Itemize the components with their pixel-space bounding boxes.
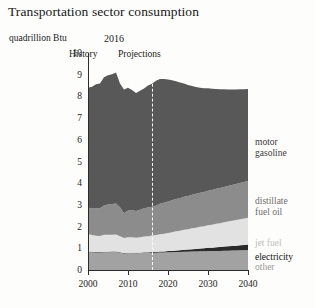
y-tick-label: 6 — [60, 135, 82, 145]
x-tick-label: 2000 — [79, 279, 98, 289]
area-series-other — [88, 250, 248, 270]
y-tick-label: 1 — [60, 243, 82, 253]
y-tick-label: 4 — [60, 178, 82, 188]
chart-title: Transportation sector consumption — [8, 4, 199, 20]
y-tick-label: 2 — [60, 222, 82, 232]
y-tick-label: 3 — [60, 200, 82, 210]
y-axis-units-label: quadrillion Btu — [9, 33, 67, 43]
y-tick-label: 5 — [60, 157, 82, 167]
transportation-consumption-chart: Transportation sector consumption quadri… — [0, 0, 315, 308]
history-projection-divider — [152, 59, 154, 270]
x-axis-line — [88, 270, 249, 271]
series-label-jet-fuel: jet fuel — [255, 238, 282, 249]
series-label-distillate-fuel-oil: distillate fuel oil — [255, 196, 288, 217]
y-tick-label: 7 — [60, 113, 82, 123]
divider-year-label: 2016 — [104, 33, 124, 44]
stacked-area-series — [88, 53, 248, 270]
y-tick-label: 9 — [60, 70, 82, 80]
series-label-other: other — [255, 262, 275, 273]
x-tick-label: 2040 — [239, 279, 258, 289]
y-tick-label: 10 — [60, 48, 82, 58]
y-tick-label: 0 — [60, 265, 82, 275]
series-label-electricity: electricity — [255, 252, 293, 263]
x-tick-label: 2010 — [119, 279, 138, 289]
y-tick-label: 8 — [60, 91, 82, 101]
plot-area — [88, 53, 248, 270]
x-tick-label: 2020 — [159, 279, 178, 289]
y-axis-line — [88, 53, 89, 271]
x-tick-label: 2030 — [199, 279, 218, 289]
series-label-motor-gasoline: motor gasoline — [255, 137, 287, 158]
